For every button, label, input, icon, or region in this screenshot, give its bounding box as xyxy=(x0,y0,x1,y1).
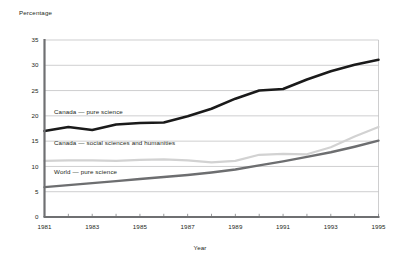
series-label-0: Canada — pure science xyxy=(54,108,123,115)
y-tick-label: 15 xyxy=(31,137,39,144)
y-tick-label: 0 xyxy=(35,213,39,220)
series-line-0 xyxy=(45,60,379,131)
y-tick-label: 35 xyxy=(31,36,39,43)
y-tick-label: 5 xyxy=(35,188,39,195)
chart-canvas: 05101520253035 1981198319851987198919911… xyxy=(0,0,400,263)
y-tick-label: 25 xyxy=(31,87,39,94)
line-chart: Percentage 05101520253035 19811983198519… xyxy=(0,0,400,263)
series-label-2: World — pure science xyxy=(54,168,118,175)
x-tick-label: 1991 xyxy=(276,223,291,230)
axis-lines xyxy=(44,39,380,217)
x-tick-label: 1983 xyxy=(85,223,100,230)
x-tick-label: 1989 xyxy=(228,223,243,230)
y-tick-label: 10 xyxy=(31,163,39,170)
x-tick-label: 1993 xyxy=(324,223,339,230)
series-label-1: Canada — social sciences and humanities xyxy=(54,139,175,146)
x-axis-ticks: 19811983198519871989199119931995 xyxy=(37,223,386,230)
x-tick-label: 1985 xyxy=(133,223,148,230)
y-axis-ticks: 05101520253035 xyxy=(31,36,39,220)
x-tick-label: 1995 xyxy=(371,223,386,230)
y-tick-label: 20 xyxy=(31,112,39,119)
series-inline-labels: Canada — pure scienceCanada — social sci… xyxy=(54,108,175,175)
y-tick-label: 30 xyxy=(31,61,39,68)
x-tick-label: 1987 xyxy=(181,223,196,230)
x-axis-title: Year xyxy=(0,244,400,251)
x-tick-label: 1981 xyxy=(37,223,52,230)
